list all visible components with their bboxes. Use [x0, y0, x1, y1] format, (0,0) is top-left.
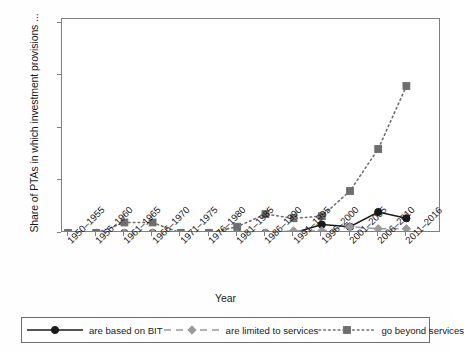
plot-area — [61, 18, 440, 232]
dashed-diamond-marker — [163, 324, 221, 336]
chart-legend: are based on BITare limited to servicesg… — [21, 317, 430, 343]
legend-label: are based on BIT — [89, 325, 163, 336]
solid-circle-marker — [26, 324, 84, 336]
legend-label: are limited to services — [226, 325, 319, 336]
legend-item[interactable]: are based on BIT — [26, 324, 163, 336]
x-axis-label: Year — [0, 292, 451, 304]
dotted-square-marker — [318, 324, 376, 336]
legend-item[interactable]: go beyond services — [318, 324, 464, 336]
series-canvas — [62, 19, 439, 231]
legend-item[interactable]: are limited to services — [163, 324, 319, 336]
legend-label: go beyond services — [381, 325, 464, 336]
y-axis-label: Share of PTAs in which investment provis… — [28, 3, 40, 243]
